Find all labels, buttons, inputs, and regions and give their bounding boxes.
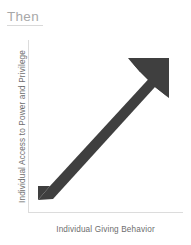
y-axis-label: Individual Access to Power and Privilege — [16, 40, 29, 213]
x-axis-label: Individual Giving Behavior — [28, 224, 183, 236]
x-axis-line — [28, 212, 183, 213]
page-title: Then — [7, 9, 39, 24]
title-underline-divider — [7, 25, 43, 26]
plot-area — [29, 40, 183, 212]
chart-figure: Then Individual Access to Power and Priv… — [0, 0, 191, 245]
upward-trend-arrow-icon — [29, 40, 183, 212]
